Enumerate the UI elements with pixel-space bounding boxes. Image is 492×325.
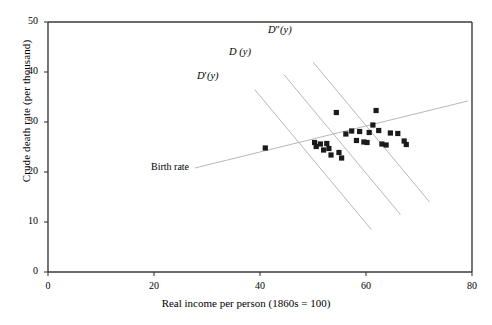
y-tick-label: 10 [12,215,38,226]
scatter-point [404,142,409,147]
scatter-points-layer [263,108,409,161]
y-tick-label: 0 [12,265,38,276]
scatter-point [343,131,348,136]
trend-line-Birthrate [195,101,468,168]
scatter-point [318,141,323,146]
y-tick-label: 20 [12,165,38,176]
x-tick-label: 40 [240,280,280,291]
scatter-point [376,128,381,133]
scatter-point [321,147,326,152]
y-tick-label: 50 [12,15,38,26]
scatter-point [395,131,400,136]
scatter-point [367,130,372,135]
scatter-point [263,145,268,150]
scatter-point [357,129,362,134]
scatter-point [373,108,378,113]
scatter-point [326,146,331,151]
scatter-point [354,138,359,143]
x-tick-label: 60 [346,280,386,291]
scatter-point [388,130,393,135]
y-tick-label: 30 [12,115,38,126]
scatter-point [384,142,389,147]
y-tick-label: 40 [12,65,38,76]
x-axis-title: Real income per person (1860s = 100) [0,297,492,309]
trend-lines-layer [195,62,468,230]
scatter-point [370,122,375,127]
figure: Crude death rate (per thousand) Real inc… [0,0,492,325]
scatter-point [336,150,341,155]
axes-layer [44,22,472,276]
scatter-point [339,155,344,160]
curve-label-Dy: D′(y) [197,70,219,81]
curve-label-Dy: D″(y) [268,24,292,35]
scatter-point [334,110,339,115]
scatter-point [328,152,333,157]
birth-rate-label: Birth rate [151,161,189,172]
scatter-point [324,141,329,146]
x-tick-label: 20 [134,280,174,291]
y-axis-title: Crude death rate (per thousand) [20,1,32,221]
x-tick-label: 0 [28,280,68,291]
x-tick-label: 80 [452,280,492,291]
scatter-point [349,128,354,133]
curve-label-Dy: D (y) [229,46,251,57]
scatter-point [364,140,369,145]
